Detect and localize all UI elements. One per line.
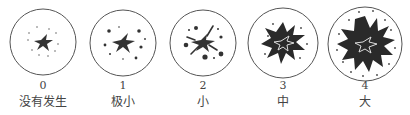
stage-3-grade: 3 (243, 80, 323, 92)
stage-2-panel: 2 小 (163, 0, 243, 115)
stage-4-dish-icon (325, 0, 405, 82)
stage-1-grade: 1 (83, 80, 163, 92)
stage-1-panel: 1 极小 (83, 0, 163, 115)
stage-4-grade: 4 (325, 80, 405, 92)
stage-1-dish-icon (83, 0, 163, 80)
stage-3-dish-icon (243, 0, 323, 80)
stage-2-label: 小 (163, 95, 243, 109)
stage-0-panel: 0 没有发生 (3, 0, 83, 115)
stage-3-panel: 3 中 (243, 0, 323, 115)
stage-1-label: 极小 (83, 95, 163, 109)
stage-0-dish-icon (3, 0, 83, 80)
stage-4-panel: 4 大 (325, 0, 405, 115)
stage-0-grade: 0 (3, 80, 83, 92)
stage-0-label: 没有发生 (3, 95, 83, 109)
stage-2-dish-icon (163, 0, 243, 80)
stage-2-grade: 2 (163, 80, 243, 92)
stage-4-label: 大 (325, 95, 405, 109)
stage-3-label: 中 (243, 95, 323, 109)
